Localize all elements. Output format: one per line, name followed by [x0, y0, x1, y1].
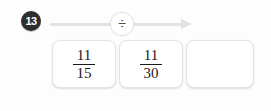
answer-tile[interactable] [186, 40, 254, 88]
fraction-2: 11 30 [140, 48, 162, 81]
fraction-1: 11 15 [73, 48, 95, 81]
fraction-1-numerator: 11 [73, 48, 95, 64]
fraction-2-denominator: 30 [140, 65, 162, 81]
answer-fraction [217, 64, 223, 65]
arrow-head-icon [181, 19, 192, 29]
fraction-2-numerator: 11 [140, 48, 162, 64]
fraction-tile-2[interactable]: 11 30 [119, 40, 183, 88]
division-icon: ÷ [111, 13, 133, 35]
answer-numerator [217, 64, 223, 65]
fraction-tiles-row: 11 15 11 30 [52, 40, 254, 88]
operation-arrow: ÷ [50, 12, 195, 37]
fraction-1-denominator: 15 [73, 65, 95, 81]
exercise-container: 13 ÷ 11 15 11 30 [0, 0, 271, 111]
operation-badge: ÷ [110, 12, 134, 36]
question-number-badge: 13 [21, 11, 41, 31]
fraction-tile-1[interactable]: 11 15 [52, 40, 116, 88]
